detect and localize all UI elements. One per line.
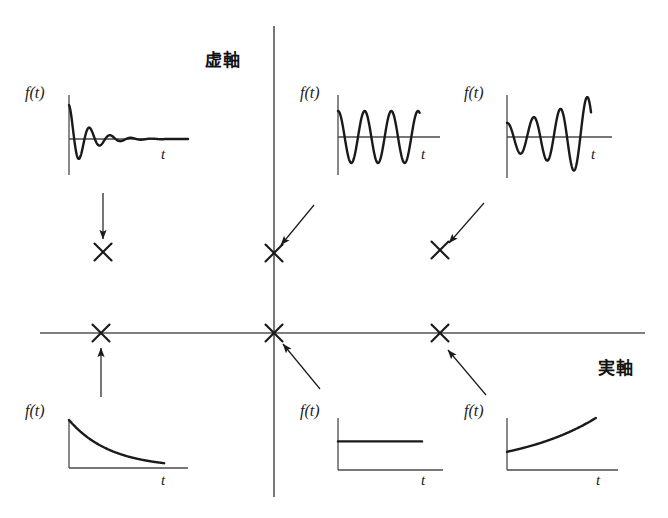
- mini-plot-xlabel: t: [161, 146, 165, 163]
- complex-plane-canvas: [0, 0, 668, 518]
- response-curve: [507, 97, 591, 170]
- mini-plot-xlabel: t: [161, 472, 165, 489]
- annotation-arrows: [101, 193, 486, 397]
- mini-plot-ylabel: f(t): [25, 84, 45, 102]
- real-axis-label: 実軸: [598, 354, 634, 379]
- imaginary-axis-label: 虚軸: [205, 46, 241, 71]
- response-curve: [507, 418, 596, 452]
- annotation-arrow: [281, 205, 314, 245]
- plane-axes: [40, 26, 645, 497]
- mini-plot-ylabel: f(t): [300, 402, 320, 420]
- mini-plot-ylabel: f(t): [300, 84, 320, 102]
- mini-plot-ylabel: f(t): [25, 402, 45, 420]
- response-curve: [69, 420, 164, 463]
- pole-markers: [93, 242, 449, 342]
- mini-response-plot: [338, 418, 443, 470]
- annotation-arrow: [283, 344, 320, 389]
- mini-plot-ylabel: f(t): [464, 84, 484, 102]
- mini-plot-xlabel: t: [421, 472, 425, 489]
- mini-plot-xlabel: t: [591, 146, 595, 163]
- s-plane-diagram: 虚軸 実軸 f(t)tf(t)tf(t)tf(t)tf(t)tf(t)t: [0, 0, 668, 518]
- mini-plot-xlabel: t: [421, 146, 425, 163]
- annotation-arrow: [449, 203, 484, 243]
- mini-response-plot: [338, 95, 440, 175]
- pole-x-marker: [432, 242, 449, 259]
- annotation-arrow: [448, 350, 486, 395]
- mini-response-plot: [69, 420, 188, 468]
- response-plots: [69, 95, 618, 470]
- response-curve: [69, 105, 188, 159]
- mini-response-plot: [69, 95, 188, 175]
- mini-response-plot: [507, 418, 618, 470]
- mini-response-plot: [507, 95, 612, 178]
- pole-x-marker: [95, 244, 112, 261]
- mini-plot-xlabel: t: [596, 472, 600, 489]
- mini-plot-ylabel: f(t): [464, 402, 484, 420]
